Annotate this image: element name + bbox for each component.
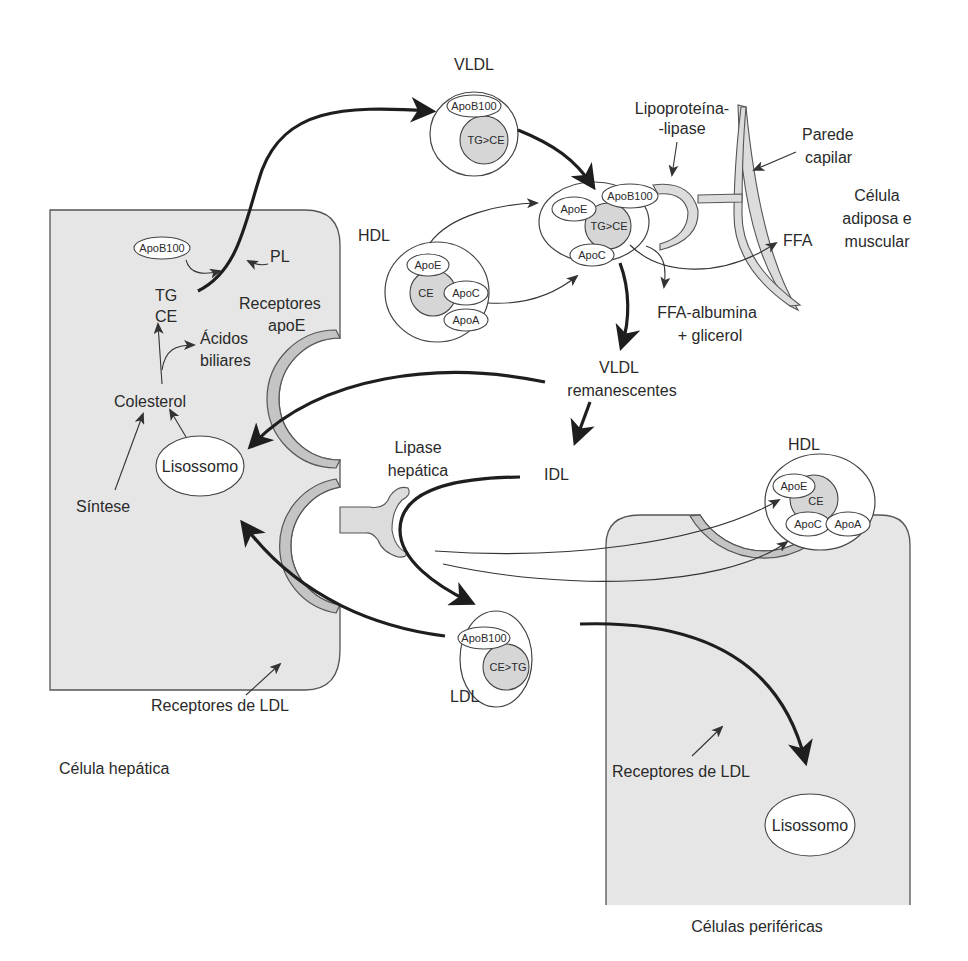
- adipose-label-3: muscular: [845, 233, 911, 250]
- liver-lysosome-label: Lisossomo: [162, 458, 239, 475]
- vldl-active-core: TG>CE: [591, 220, 628, 232]
- idl-label: IDL: [544, 466, 569, 483]
- ldl-label: LDL: [450, 688, 479, 705]
- vldl-apob100: ApoB100: [451, 100, 496, 112]
- bile-acids-label-2: biliares: [200, 352, 251, 369]
- apoe-receptor-label-1: Receptores: [239, 295, 321, 312]
- lpl-label-2: -lipase: [658, 120, 705, 137]
- hdl-right-apoa: ApoA: [835, 518, 863, 530]
- lipoprotein-lipase-enzyme: [653, 184, 742, 250]
- tg-label: TG: [155, 287, 177, 304]
- bile-acids-label-1: Ácidos: [200, 329, 248, 347]
- arrow-hdl-apoc-transfer: [488, 276, 577, 303]
- peripheral-cell-label: Células periféricas: [691, 918, 823, 935]
- pl-label: PL: [270, 248, 290, 265]
- vldl-label: VLDL: [454, 56, 494, 73]
- hepatic-lipase-enzyme: [340, 487, 409, 557]
- capillary-wall-body: [734, 107, 800, 306]
- ffa-label: FFA: [783, 232, 813, 249]
- vldl-remnants-label-1: VLDL: [599, 359, 639, 376]
- ffa-albumin-label-2: + glicerol: [678, 327, 742, 344]
- liver-ldl-receptor-label: Receptores de LDL: [151, 697, 289, 714]
- capillary-label-1: Parede: [802, 126, 854, 143]
- arrow-remnants-to-liver: [252, 373, 545, 445]
- hdl-right-apoc: ApoC: [794, 518, 822, 530]
- hdl-left-particle[interactable]: ApoE CE ApoC ApoA: [385, 242, 489, 342]
- hdl-right-core: CE: [808, 495, 823, 507]
- arrow-idl-to-ldl: [400, 477, 520, 602]
- adipose-label-2: adiposa e: [842, 210, 911, 227]
- arrow-lpl-label: [672, 142, 677, 175]
- hdl-right-particle[interactable]: ApoE CE ApoC ApoA: [765, 454, 875, 550]
- hdl-right-apoe: ApoE: [781, 480, 808, 492]
- liver-cell-label: Célula hepática: [59, 760, 169, 777]
- adipose-label-1: Célula: [854, 187, 899, 204]
- apoe-receptor-label-2: apoE: [268, 317, 305, 334]
- vldl-active-apoc: ApoC: [578, 249, 606, 261]
- lpl-label-1: Lipoproteína-: [635, 100, 729, 117]
- hepatic-lipase-label-2: hepática: [388, 462, 449, 479]
- hdl-right-label: HDL: [788, 436, 820, 453]
- arrow-ffa-albumin: [646, 246, 665, 287]
- liver-apob100-label: ApoB100: [139, 242, 184, 254]
- hepatic-lipase-label-1: Lipase: [394, 439, 441, 456]
- ldl-core: CE>TG: [490, 661, 527, 673]
- hdl-left-apoc: ApoC: [452, 287, 480, 299]
- peripheral-lysosome-label: Lisossomo: [772, 817, 849, 834]
- arrow-hdl-apoe-transfer: [430, 203, 537, 243]
- arrow-remnants-to-idl: [576, 402, 590, 440]
- vldl-core: TG>CE: [468, 134, 505, 146]
- sintese-label: Síntese: [76, 498, 130, 515]
- vldl-active-apoe: ApoE: [561, 203, 588, 215]
- capillary-label-2: capilar: [805, 149, 853, 166]
- colesterol-label: Colesterol: [114, 393, 186, 410]
- vldl-active-apob100: ApoB100: [607, 190, 652, 202]
- hdl-left-label: HDL: [358, 227, 390, 244]
- ce-label: CE: [155, 308, 177, 325]
- vldl-particle[interactable]: ApoB100 TG>CE: [430, 92, 518, 176]
- vldl-remnants-label-2: remanescentes: [567, 382, 676, 399]
- arrow-to-remnants: [620, 263, 628, 345]
- hdl-left-apoe: ApoE: [415, 259, 442, 271]
- ldl-apob100: ApoB100: [461, 632, 506, 644]
- hdl-left-apoa: ApoA: [453, 314, 481, 326]
- arrow-capillary-label: [754, 152, 796, 170]
- peripheral-cell: [606, 515, 910, 905]
- lipoprotein-metabolism-diagram: ApoB100 TG>CE VLDL ApoB100 ApoE TG>CE Ap…: [0, 0, 968, 961]
- hdl-left-core: CE: [418, 287, 433, 299]
- arrow-vldl-to-lpl: [518, 130, 592, 185]
- ffa-albumin-label-1: FFA-albumina: [657, 304, 757, 321]
- peripheral-ldl-receptor-label: Receptores de LDL: [612, 763, 750, 780]
